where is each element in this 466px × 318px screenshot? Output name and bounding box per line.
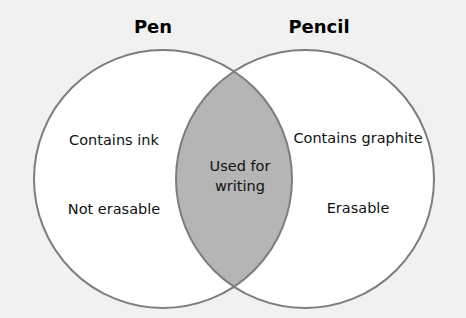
pen-item-not-erasable: Not erasable [68,201,160,217]
intersection-line-1: Used for [210,156,271,176]
intersection-label: Used for writing [210,156,271,196]
pencil-item-contains-graphite: Contains graphite [293,130,422,146]
pencil-title: Pencil [288,16,349,37]
pen-title: Pen [134,16,172,37]
venn-diagram: Pen Pencil Contains ink Not erasable Use… [0,0,466,318]
intersection-line-2: writing [210,176,271,196]
pen-item-contains-ink: Contains ink [69,132,159,148]
pencil-item-erasable: Erasable [327,200,390,216]
